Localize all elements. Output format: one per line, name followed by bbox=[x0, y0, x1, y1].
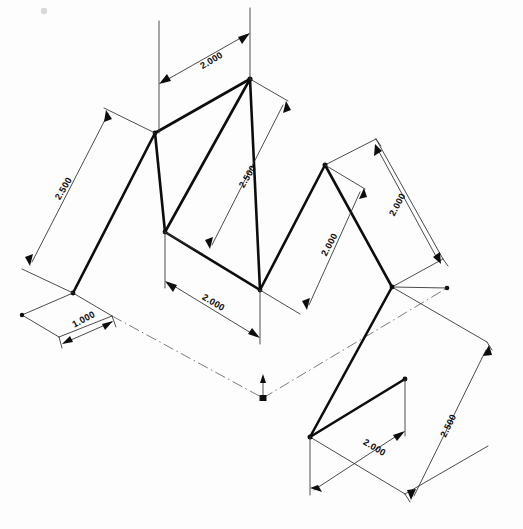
scan-speck bbox=[41, 8, 47, 14]
arrow-rlong-top bbox=[483, 345, 492, 356]
thin-tab-bottom-edge bbox=[310, 437, 405, 494]
center-line-right bbox=[263, 288, 447, 398]
ext-rinner-lower bbox=[260, 290, 300, 314]
dim-label-left-foot: 1.000 bbox=[70, 309, 96, 329]
origin-symbol bbox=[260, 374, 267, 401]
thin-right-base-link bbox=[392, 287, 447, 288]
ext-router-lower bbox=[443, 259, 448, 266]
dimension-top-width: 2.000 bbox=[159, 8, 250, 133]
dimension-bottom-tab: 2.000 bbox=[310, 379, 405, 495]
dim-line-base bbox=[169, 283, 256, 336]
arrow-left-bottom bbox=[25, 254, 33, 266]
isometric-drawing-svg: 2.000 2.500 1.000 2.500 bbox=[0, 0, 523, 529]
arrow-rinner-top bbox=[359, 188, 367, 199]
dimension-right-long-slope: 2.500 bbox=[405, 342, 492, 502]
dimension-center-slope: 2.500 bbox=[165, 79, 291, 254]
thin-right-base-extend bbox=[392, 287, 487, 342]
ext-left-upper bbox=[104, 108, 155, 133]
vertex-dot-left-foot-outer bbox=[20, 313, 24, 317]
vertex-dot-right-base bbox=[390, 285, 395, 290]
arrow-base-left bbox=[165, 281, 177, 292]
edge-left-ridge-drop bbox=[155, 133, 165, 232]
arrow-base-right bbox=[248, 328, 260, 338]
arrow-center-bottom bbox=[205, 237, 213, 249]
dim-label-right-outer: 2.000 bbox=[387, 191, 407, 217]
ext-center-lower bbox=[165, 232, 203, 254]
arrow-rinner-bottom bbox=[302, 298, 310, 310]
thin-left-foot-side bbox=[22, 315, 59, 337]
dim-line-router bbox=[377, 148, 438, 260]
dim-label-left-slope: 2.500 bbox=[53, 175, 74, 201]
arrow-foot-right bbox=[102, 321, 113, 330]
dim-line-tab bbox=[314, 433, 401, 490]
edge-rise-to-right-apex bbox=[260, 165, 325, 290]
dim-label-bottom-tab: 2.000 bbox=[361, 437, 387, 458]
thin-right-lower-edge bbox=[392, 259, 443, 287]
edge-apex-to-mid-right bbox=[250, 79, 260, 290]
arrow-center-top bbox=[283, 101, 291, 113]
dimension-left-foot: 1.000 bbox=[59, 309, 116, 348]
vertex-dots-group bbox=[20, 76, 408, 439]
thin-tab-diag-edge bbox=[405, 446, 488, 494]
thin-right-outer-edge bbox=[376, 139, 443, 259]
origin-arrow-head bbox=[260, 374, 266, 383]
dim-label-top-width: 2.000 bbox=[198, 50, 224, 71]
object-outline-group bbox=[73, 79, 405, 437]
edge-right-apex-to-base bbox=[325, 165, 392, 287]
thin-left-foot-front bbox=[22, 293, 73, 315]
edge-right-long-slope bbox=[310, 287, 392, 437]
center-line-left bbox=[112, 316, 263, 398]
origin-square bbox=[260, 395, 267, 401]
edge-tab-top bbox=[310, 379, 405, 437]
dim-label-right-long-slope: 2.500 bbox=[438, 412, 458, 438]
dim-line-rinner bbox=[309, 192, 360, 305]
technical-drawing-canvas: 2.000 2.500 1.000 2.500 bbox=[0, 0, 523, 529]
arrow-foot-left bbox=[62, 336, 73, 344]
ext-router-upper bbox=[376, 139, 381, 146]
edge-left-panel-slope bbox=[73, 133, 155, 293]
ext-center-upper bbox=[250, 79, 288, 101]
dimension-center-base: 2.000 bbox=[165, 232, 260, 344]
arrow-top-left bbox=[159, 74, 171, 84]
arrow-tab-right bbox=[393, 431, 405, 441]
arrow-top-right bbox=[238, 33, 250, 44]
ext-left-lower bbox=[22, 269, 73, 293]
ext-foot-left bbox=[59, 337, 62, 348]
thin-right-top-edge bbox=[325, 139, 376, 165]
dim-line-left bbox=[32, 114, 108, 262]
